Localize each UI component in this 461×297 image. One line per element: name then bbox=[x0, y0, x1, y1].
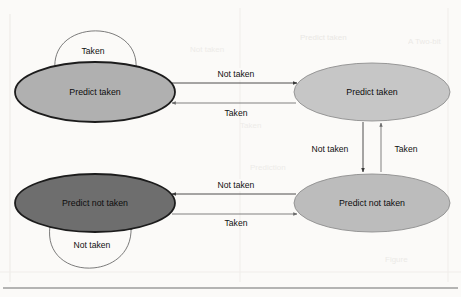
transition-weak-not-taken-to-strong-not-taken: Not taken bbox=[172, 179, 296, 194]
watermark-4: Prediction bbox=[250, 163, 286, 172]
state-weak-taken-label: Predict taken bbox=[346, 87, 397, 97]
state-diagram-canvas: Predict taken A Two-bit Not taken Taken … bbox=[0, 0, 461, 297]
state-weak-not-taken-label: Predict not taken bbox=[339, 198, 405, 208]
transition-t4-label: Taken bbox=[395, 144, 418, 154]
state-strong-taken-label: Predict taken bbox=[69, 87, 120, 97]
figure-page: Predict taken A Two-bit Not taken Taken … bbox=[0, 0, 461, 297]
transition-strong-not-taken-to-weak-not-taken: Taken bbox=[172, 214, 297, 228]
transition-t6-label: Taken bbox=[225, 218, 248, 228]
watermark-0: Predict taken bbox=[300, 33, 347, 42]
self-loop-not-taken-label: Not taken bbox=[74, 240, 111, 250]
state-strong-taken[interactable]: Predict taken bbox=[15, 62, 175, 122]
state-strong-not-taken-label: Predict not taken bbox=[62, 198, 128, 208]
transition-t3-label: Not taken bbox=[312, 144, 349, 154]
transition-weak-not-taken-to-weak-taken: Taken bbox=[381, 123, 418, 172]
state-weak-taken[interactable]: Predict taken bbox=[294, 63, 450, 121]
page-artifacts: Predict taken A Two-bit Not taken Taken … bbox=[0, 8, 461, 282]
transition-t1-label: Not taken bbox=[218, 69, 255, 79]
watermark-2: Not taken bbox=[190, 45, 224, 54]
state-weak-not-taken[interactable]: Predict not taken bbox=[294, 174, 450, 232]
transition-t5-label: Not taken bbox=[218, 180, 255, 190]
transition-weak-taken-to-weak-not-taken: Not taken bbox=[312, 122, 363, 172]
transition-strong-taken-to-weak-taken: Not taken bbox=[172, 68, 297, 83]
watermark-1: A Two-bit bbox=[408, 37, 442, 46]
watermark-5: Figure bbox=[385, 255, 408, 264]
state-strong-not-taken[interactable]: Predict not taken bbox=[15, 174, 175, 232]
watermark-3: Taken bbox=[240, 121, 261, 130]
transition-weak-taken-to-strong-taken: Taken bbox=[172, 103, 296, 118]
transition-t2-label: Taken bbox=[225, 108, 248, 118]
self-loop-taken-label: Taken bbox=[82, 46, 105, 56]
